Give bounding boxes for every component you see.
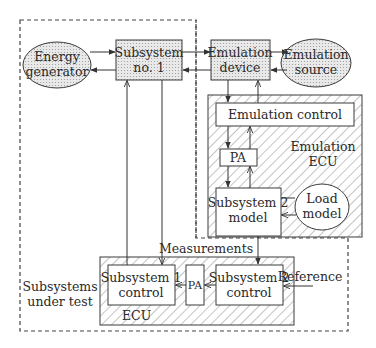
emulation-control-label: Emulation control <box>228 107 342 122</box>
subsystem-1-control-node: Subsystem 1 control <box>101 265 182 305</box>
load-model-label-1: Load <box>306 191 337 206</box>
system-diagram: Energy generator Subsystem no. 1 Emulati… <box>0 0 376 348</box>
emulation-source-node: Emulation source <box>281 39 351 87</box>
subsystem-1-node: Subsystem no. 1 <box>115 40 184 80</box>
subsystems-under-test-label-1: Subsystems <box>22 279 97 294</box>
pa-ecu-label: PA <box>188 279 203 292</box>
emulation-device-node: Emulation device <box>207 40 272 80</box>
emulation-device-label-1: Emulation <box>207 45 272 60</box>
emulation-source-label-2: source <box>295 62 337 77</box>
subsystem-1-control-label-2: control <box>118 285 163 300</box>
emulation-source-label-1: Emulation <box>283 47 348 62</box>
subsystems-under-test-label-2: under test <box>27 294 92 309</box>
subsystem-1-label-1: Subsystem <box>115 45 184 60</box>
emulation-device-label-2: device <box>220 60 261 75</box>
subsystem-1-control-label-1: Subsystem 1 <box>101 270 182 285</box>
load-model-label-2: model <box>303 206 342 221</box>
energy-generator-node: Energy generator <box>23 42 91 88</box>
load-model-node: Load model <box>295 184 349 230</box>
emulation-ecu-label-2: ECU <box>308 154 337 169</box>
subsystem-2-model-label-1: Subsystem 2 <box>208 195 289 210</box>
subsystem-2-control-label-2: control <box>226 285 271 300</box>
reference-label: Reference <box>278 269 343 284</box>
subsystem-2-model-node: Subsystem 2 model <box>208 188 289 236</box>
ecu-label: ECU <box>122 308 151 323</box>
energy-generator-label-1: Energy <box>34 49 81 64</box>
subsystem-2-model-label-2: model <box>229 210 268 225</box>
pa-emulation-label: PA <box>230 150 247 165</box>
emulation-ecu-label-1: Emulation <box>290 139 355 154</box>
emulation-control-node: Emulation control <box>216 103 354 126</box>
measurements-label: Measurements <box>159 241 253 256</box>
subsystem-1-label-2: no. 1 <box>133 60 164 75</box>
pa-ecu-node: PA <box>186 265 204 305</box>
pa-emulation-node: PA <box>220 149 257 166</box>
energy-generator-label-2: generator <box>26 64 89 79</box>
